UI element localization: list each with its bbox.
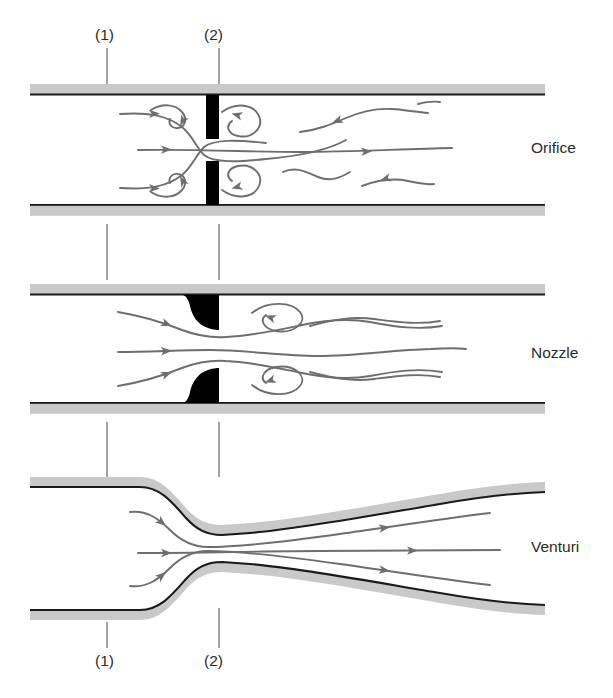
station-label-top-1: (1): [95, 27, 114, 43]
arrowhead-upper-nozzle-entry: [160, 318, 173, 330]
station-leader-lines-mid-2: [107, 422, 219, 477]
streamline-lower-wake-vortex: [222, 166, 260, 197]
streamline-venturi-center: [138, 550, 500, 553]
station-label-top-2: (2): [204, 27, 223, 43]
device-label-orifice: Orifice: [531, 140, 576, 156]
station-label-bottom-2: (2): [204, 653, 223, 669]
orifice-pipe-walls: [30, 84, 545, 216]
pipe-wall-bottom-fill: [30, 206, 545, 216]
nozzle-body-upper: [183, 295, 219, 330]
nozzle-body: [183, 295, 219, 403]
streamline-upper-wake-wave: [300, 109, 428, 132]
nozzle-streamlines: [118, 304, 466, 394]
pipe-wall-bottom-fill: [30, 404, 545, 414]
venturi-section: [30, 477, 545, 620]
arrowhead-lower-nozzle-vortex: [264, 375, 277, 387]
diagram-canvas: [0, 0, 613, 698]
arrowhead-upper-wake-wave: [330, 115, 343, 127]
venturi-wall-bottom-fill: [30, 562, 545, 620]
station-leader-lines-mid-1: [107, 224, 219, 280]
streamline-nozzle-center: [118, 348, 466, 356]
orifice-plate-upper: [206, 95, 219, 139]
venturi-pipe-walls: [30, 477, 545, 620]
nozzle-body-lower: [183, 368, 219, 403]
device-label-venturi: Venturi: [531, 539, 579, 555]
venturi-wall-top-fill: [30, 477, 545, 535]
device-label-nozzle: Nozzle: [531, 345, 578, 361]
arrowhead-lower-nozzle-entry: [160, 368, 173, 380]
orifice-plate-lower: [206, 161, 219, 205]
nozzle-pipe-walls: [30, 284, 545, 414]
arrowhead-upper-nozzle-vortex: [264, 312, 277, 324]
orifice-streamlines: [120, 102, 452, 197]
streamline-upper-entry-tail: [266, 140, 346, 159]
arrowhead-upper-wake-vortex: [230, 109, 243, 120]
streamline-centerline: [138, 148, 452, 152]
streamline-upper-wake-fragment: [418, 102, 440, 104]
nozzle-section: [30, 284, 545, 414]
streamline-lower-wake-wave-a: [283, 169, 350, 179]
station-label-bottom-1: (1): [95, 653, 114, 669]
orifice-section: [30, 48, 545, 216]
streamline-upper-wake-vortex: [222, 106, 260, 137]
streamline-lower-wake-wave-b: [362, 180, 434, 186]
pipe-wall-top-fill: [30, 284, 545, 294]
arrowhead-lower-wake-vortex: [230, 182, 243, 193]
flow-meter-diagram: (1) (2) (1) (2) Orifice Nozzle Venturi: [0, 0, 613, 698]
pipe-wall-top-fill: [30, 84, 545, 94]
station-leader-lines-top: [107, 48, 219, 84]
